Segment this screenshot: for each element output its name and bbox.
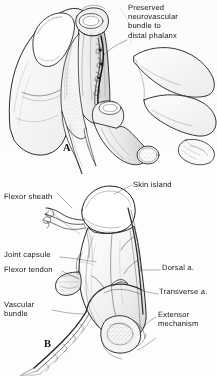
dorsal-artery <box>121 208 143 314</box>
neurovascular-bundle <box>94 36 103 105</box>
leader-vascular-bundle <box>52 310 84 314</box>
medical-illustration-figure: Preserved neurovascular bundle to distal… <box>0 0 217 376</box>
label-joint-capsule: Joint capsule <box>4 250 51 259</box>
label-preserved-neurovascular-bundle: Preserved neurovascular bundle to distal… <box>128 3 178 40</box>
panel-a-artwork <box>0 0 217 178</box>
joint-capsule <box>76 252 94 275</box>
label-transverse-artery: Transverse a. <box>159 287 207 296</box>
cut-phalanx-segment <box>92 101 159 165</box>
leader-line-preserved-bundle <box>103 40 127 56</box>
label-dorsal-artery: Dorsal a. <box>162 263 194 272</box>
thumb-outline <box>9 8 88 155</box>
flap-body <box>79 226 146 339</box>
leader-joint-capsule <box>60 257 96 262</box>
label-flexor-tendon: Flexor tendon <box>4 265 53 274</box>
transverse-artery <box>86 276 142 312</box>
label-flexor-sheath: Flexor sheath <box>4 192 52 201</box>
panel-b-artwork <box>0 178 217 376</box>
leader-extensor-1 <box>143 317 156 328</box>
leader-extensor-2 <box>138 338 156 350</box>
panel-a: Preserved neurovascular bundle to distal… <box>0 0 217 178</box>
leader-flexor-sheath <box>58 194 72 208</box>
panel-letter-a: A <box>63 142 71 153</box>
index-finger <box>134 48 216 165</box>
extensor-mechanism <box>101 316 146 359</box>
leader-transverse-artery <box>143 291 158 294</box>
label-extensor-mechanism: Extensor mechanism <box>158 310 198 328</box>
leader-lines <box>52 185 160 350</box>
skin-island <box>82 186 135 233</box>
panel-b: Flexor sheath Skin island Joint capsule … <box>0 178 217 376</box>
label-skin-island: Skin island <box>133 180 172 189</box>
flexor-tendon <box>56 272 82 295</box>
leader-skin-island <box>114 185 132 194</box>
vascular-bundle <box>20 312 92 376</box>
label-vascular-bundle: Vascular bundle <box>4 300 34 318</box>
panel-letter-b: B <box>44 338 51 349</box>
leader-flexor-tendon <box>62 271 79 279</box>
